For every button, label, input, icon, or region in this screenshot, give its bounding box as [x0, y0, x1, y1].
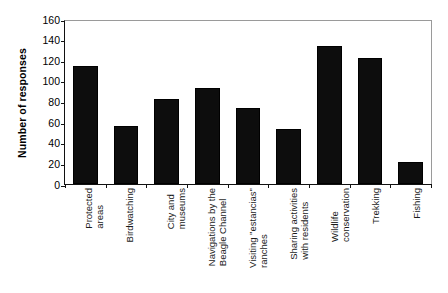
- bar: [154, 99, 179, 184]
- bar-slot: [187, 21, 228, 184]
- x-tick-label-line1: Birdwatching: [124, 188, 135, 242]
- x-tick-label: City andmuseums: [166, 188, 187, 229]
- x-label-slot: Fishing: [391, 186, 432, 291]
- x-label-slot: Protectedareas: [64, 186, 105, 291]
- x-tick-label-line2: museums: [177, 188, 188, 229]
- x-tick-label-line1: Sharing activities: [288, 188, 299, 260]
- x-tick-label-line2: ranches: [259, 188, 270, 268]
- x-tick-label-line2: with residents: [299, 188, 310, 260]
- bar: [236, 108, 261, 183]
- bar: [195, 88, 220, 184]
- y-tick-mark: [61, 82, 65, 83]
- y-tick-mark: [61, 41, 65, 42]
- bar: [73, 66, 98, 184]
- y-tick-mark: [61, 62, 65, 63]
- x-label-slot: Birdwatching: [105, 186, 146, 291]
- x-axis-tick-labels: ProtectedareasBirdwatchingCity andmuseum…: [64, 186, 432, 291]
- bar-slot: [268, 21, 309, 184]
- y-tick-label: 140: [34, 35, 60, 46]
- x-tick-label-line1: Trekking: [370, 188, 381, 224]
- y-tick-label: 20: [34, 158, 60, 169]
- y-tick-mark: [61, 165, 65, 166]
- x-tick-label-line1: Navigations by the: [206, 188, 217, 266]
- y-axis-title: Number of responses: [10, 20, 34, 185]
- bar-slot: [350, 21, 391, 184]
- bar-slot: [146, 21, 187, 184]
- y-tick-label: 120: [34, 55, 60, 66]
- x-label-slot: Wildlifeconservation: [309, 186, 350, 291]
- x-tick-label: Fishing: [412, 188, 423, 219]
- x-tick-label-line1: Protected: [83, 188, 94, 229]
- bar-slot: [65, 21, 106, 184]
- bar-slot: [228, 21, 269, 184]
- x-tick-label: Sharing activitieswith residents: [289, 188, 310, 260]
- x-label-slot: Visiting "estancias"ranches: [228, 186, 269, 291]
- x-tick-label-line2: Beagle Channel: [218, 188, 229, 266]
- x-label-slot: Trekking: [350, 186, 391, 291]
- bar-slot: [309, 21, 350, 184]
- bar-slot: [390, 21, 431, 184]
- y-tick-mark: [61, 103, 65, 104]
- x-tick-label-line1: City and: [165, 194, 176, 229]
- y-tick-mark: [61, 144, 65, 145]
- y-tick-mark: [61, 124, 65, 125]
- x-tick-label: Navigations by theBeagle Channel: [207, 188, 228, 266]
- y-tick-label: 100: [34, 76, 60, 87]
- y-tick-label: 60: [34, 117, 60, 128]
- x-label-slot: City andmuseums: [146, 186, 187, 291]
- y-tick-label: 0: [34, 179, 60, 190]
- bar-chart: Number of responses 16014012010080604020…: [0, 0, 448, 293]
- y-axis-tick-labels: 160140120100806040200: [34, 14, 60, 192]
- x-tick-label: Trekking: [371, 188, 382, 224]
- bar-slot: [106, 21, 147, 184]
- y-axis-title-text: Number of responses: [16, 48, 28, 158]
- x-label-slot: Navigations by theBeagle Channel: [187, 186, 228, 291]
- x-tick-label: Visiting "estancias"ranches: [248, 188, 269, 268]
- bar: [114, 126, 139, 184]
- x-tick-label-line1: Visiting "estancias": [247, 188, 258, 268]
- x-tick-label: Wildlifeconservation: [330, 188, 351, 242]
- bar: [358, 58, 383, 184]
- y-tick-mark: [61, 21, 65, 22]
- x-label-slot: Sharing activitieswith residents: [268, 186, 309, 291]
- bars-layer: [65, 21, 431, 184]
- plot-area: [64, 20, 432, 185]
- bar: [276, 129, 301, 184]
- bar: [398, 162, 423, 184]
- x-tick-label-line1: Wildlife: [329, 211, 340, 242]
- x-tick-label-line1: Fishing: [411, 188, 422, 219]
- x-tick-label: Protectedareas: [84, 188, 105, 229]
- y-tick-label: 160: [34, 14, 60, 25]
- x-tick-label: Birdwatching: [125, 188, 136, 242]
- x-tick-label-line2: areas: [95, 188, 106, 229]
- y-tick-label: 40: [34, 138, 60, 149]
- x-tick-label-line2: conservation: [340, 188, 351, 242]
- bar: [317, 46, 342, 183]
- y-tick-label: 80: [34, 97, 60, 108]
